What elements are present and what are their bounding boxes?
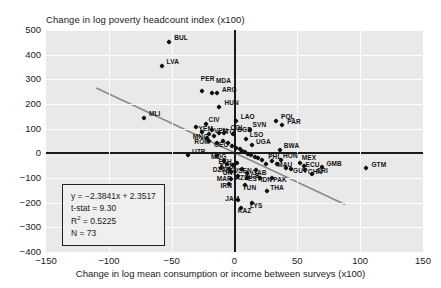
data-point-label: SVN [253,121,267,128]
data-point-label: HUN [224,99,238,106]
x-tick-label: −150 [26,255,66,266]
y-axis-title: Change in log poverty headcount index (x… [46,14,245,25]
data-point-label: THA [270,184,284,191]
x-tick-label: −50 [152,255,192,266]
data-point-label: PAR [287,118,301,125]
x-tick-label: 150 [403,255,441,266]
regression-r2: R2 = 0.5225 [71,214,156,227]
y-tick-label: 400 [0,49,41,60]
data-point-label: TUN [243,184,257,191]
data-point-label: HON [283,152,298,159]
data-point-label: ROM [194,138,209,145]
data-point-label: BWA [284,142,299,149]
y-tick-label: 200 [0,98,41,109]
x-tick-label: 100 [340,255,380,266]
gridline-horizontal [46,252,423,253]
data-point-label: GMB [326,160,341,167]
y-tick-label: −100 [0,172,41,183]
data-point-label: UGA [256,138,271,145]
zero-line-vertical [234,30,236,252]
data-point-label: LVA [167,58,179,65]
regression-equation: y = −2.3841x + 2.3517 [71,190,156,202]
r2-value: = 0.5225 [80,216,116,226]
data-point-label: PHL [268,153,281,160]
data-point-label: KAZ [238,207,252,214]
data-point-label: PAK [273,176,287,183]
data-point-label: ARG [222,86,237,93]
regression-n: N = 73 [71,227,156,239]
gridline-vertical [360,30,361,252]
x-axis-title: Change in log mean consumption or income… [0,268,441,279]
data-point-label: JAM [225,195,239,202]
data-point-label: UZB [192,148,206,155]
data-point-label: CIV [209,116,220,123]
gridline-vertical [297,30,298,252]
data-point-label: GTM [371,161,386,168]
data-point-label: PER [201,75,215,82]
data-point-label: LYS [250,202,262,209]
data-point-label: MLI [149,110,161,117]
data-point-label: MAR [217,175,232,182]
data-point-label: MDA [216,77,231,84]
x-tick-label: 0 [215,255,255,266]
regression-tstat: t-stat = 9.30 [71,202,156,214]
scatter-chart: Change in log poverty headcount index (x… [0,0,441,288]
data-point-label: BUL [174,34,188,41]
x-tick-label: −100 [89,255,129,266]
x-tick-label: 50 [277,255,317,266]
y-tick-label: −200 [0,197,41,208]
regression-stats-box: y = −2.3841x + 2.3517 t-stat = 9.30 R2 =… [62,184,165,246]
data-point-label: MEX [302,154,316,161]
y-tick-label: 0 [0,147,41,158]
y-tick-label: 300 [0,73,41,84]
y-tick-label: 100 [0,123,41,134]
y-tick-label: −300 [0,221,41,232]
data-point-label: LAO [241,113,255,120]
y-tick-label: 500 [0,24,41,35]
data-point-label: LSO [250,131,264,138]
data-point-label: IRN [220,182,232,189]
data-point-label: CRI [316,167,328,174]
